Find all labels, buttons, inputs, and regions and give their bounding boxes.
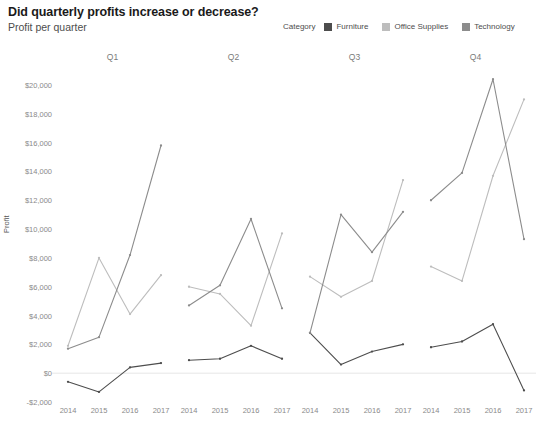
data-point[interactable] — [371, 280, 373, 282]
x-axis-tick: 2016 — [485, 406, 502, 415]
data-point[interactable] — [402, 343, 404, 345]
visualization-container: Did quarterly profits increase or decrea… — [0, 0, 536, 427]
data-point[interactable] — [523, 98, 525, 100]
x-axis-tick: 2015 — [91, 406, 108, 415]
series-line-furniture[interactable] — [310, 333, 403, 365]
data-point[interactable] — [129, 313, 131, 315]
data-point[interactable] — [188, 359, 190, 361]
x-axis-tick: 2014 — [60, 406, 77, 415]
panel-header-q2: Q2 — [173, 52, 294, 62]
series-line-technology[interactable] — [431, 79, 524, 239]
data-point[interactable] — [371, 350, 373, 352]
data-point[interactable] — [98, 257, 100, 259]
series-line-technology[interactable] — [68, 146, 161, 349]
x-axis-tick: 2014 — [181, 406, 198, 415]
data-point[interactable] — [402, 211, 404, 213]
data-point[interactable] — [67, 348, 69, 350]
x-axis-tick: 2015 — [333, 406, 350, 415]
series-line-furniture[interactable] — [68, 363, 161, 392]
series-line-furniture[interactable] — [189, 346, 282, 360]
data-point[interactable] — [309, 332, 311, 334]
series-line-technology[interactable] — [189, 219, 282, 308]
data-point[interactable] — [309, 275, 311, 277]
data-point[interactable] — [160, 274, 162, 276]
plot-area — [0, 0, 536, 427]
data-point[interactable] — [523, 389, 525, 391]
x-axis-tick: 2014 — [302, 406, 319, 415]
data-point[interactable] — [188, 286, 190, 288]
data-point[interactable] — [430, 346, 432, 348]
data-point[interactable] — [160, 144, 162, 146]
data-point[interactable] — [402, 179, 404, 181]
data-point[interactable] — [281, 232, 283, 234]
panel-header-q3: Q3 — [294, 52, 415, 62]
data-point[interactable] — [340, 363, 342, 365]
data-point[interactable] — [219, 293, 221, 295]
data-point[interactable] — [281, 307, 283, 309]
data-point[interactable] — [281, 358, 283, 360]
series-line-office-supplies[interactable] — [68, 258, 161, 346]
data-point[interactable] — [461, 172, 463, 174]
data-point[interactable] — [219, 358, 221, 360]
data-point[interactable] — [430, 265, 432, 267]
x-axis-tick: 2017 — [395, 406, 412, 415]
data-point[interactable] — [250, 345, 252, 347]
x-axis-tick: 2017 — [516, 406, 533, 415]
data-point[interactable] — [188, 304, 190, 306]
data-point[interactable] — [340, 214, 342, 216]
series-line-furniture[interactable] — [431, 324, 524, 390]
x-axis-tick: 2016 — [364, 406, 381, 415]
data-point[interactable] — [129, 254, 131, 256]
data-point[interactable] — [430, 199, 432, 201]
data-point[interactable] — [67, 345, 69, 347]
x-axis-tick: 2014 — [423, 406, 440, 415]
series-line-technology[interactable] — [310, 212, 403, 333]
data-point[interactable] — [492, 78, 494, 80]
data-point[interactable] — [250, 324, 252, 326]
data-point[interactable] — [98, 391, 100, 393]
data-point[interactable] — [129, 366, 131, 368]
data-point[interactable] — [371, 251, 373, 253]
panel-header-q4: Q4 — [415, 52, 536, 62]
data-point[interactable] — [98, 336, 100, 338]
data-point[interactable] — [340, 296, 342, 298]
data-point[interactable] — [492, 175, 494, 177]
data-point[interactable] — [219, 284, 221, 286]
x-axis-tick: 2016 — [243, 406, 260, 415]
x-axis-tick: 2015 — [212, 406, 229, 415]
data-point[interactable] — [523, 238, 525, 240]
panel-header-q1: Q1 — [52, 52, 173, 62]
data-point[interactable] — [461, 340, 463, 342]
data-point[interactable] — [160, 362, 162, 364]
data-point[interactable] — [461, 280, 463, 282]
x-axis-tick: 2017 — [153, 406, 170, 415]
x-axis-tick: 2016 — [122, 406, 139, 415]
series-line-office-supplies[interactable] — [189, 233, 282, 325]
x-axis-tick: 2015 — [454, 406, 471, 415]
data-point[interactable] — [492, 323, 494, 325]
data-point[interactable] — [67, 381, 69, 383]
x-axis-tick: 2017 — [274, 406, 291, 415]
data-point[interactable] — [250, 218, 252, 220]
